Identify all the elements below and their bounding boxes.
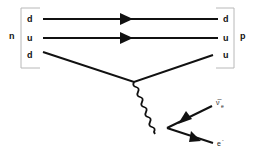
quark-line-u xyxy=(43,32,218,44)
proton-quark-1: d xyxy=(223,14,229,24)
svg-text:e: e xyxy=(217,140,221,147)
neutron-quark-2: u xyxy=(27,33,33,43)
arrow-right-icon xyxy=(120,32,133,44)
arrow-icon xyxy=(189,131,201,142)
arrow-right-icon xyxy=(120,13,133,25)
neutron-label: n xyxy=(9,31,15,41)
electron-label: e - xyxy=(217,137,224,147)
svg-text:-: - xyxy=(222,137,224,143)
arrow-icon xyxy=(178,111,192,124)
proton-label: p xyxy=(240,31,246,41)
electron-line xyxy=(167,128,213,143)
proton-quark-3: u xyxy=(223,50,229,60)
antineutrino-label: ν̅ e xyxy=(216,99,224,109)
neutron-quark-3: d xyxy=(27,50,33,60)
quark-line-d-to-u xyxy=(43,52,213,82)
quark-line-d xyxy=(43,13,218,25)
feynman-diagram: n d u d p d u u ν̅ e e - xyxy=(0,0,253,154)
antineutrino-line xyxy=(167,106,212,128)
proton-quark-2: u xyxy=(223,33,229,43)
svg-text:e: e xyxy=(221,103,224,109)
w-boson-line xyxy=(133,82,155,134)
neutron-quark-1: d xyxy=(27,14,33,24)
